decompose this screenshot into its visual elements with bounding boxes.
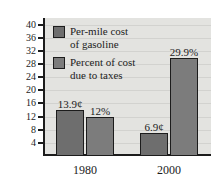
- y-axis: 481216202428323640: [0, 18, 45, 158]
- y-axis-tick-mark: [38, 63, 45, 65]
- y-axis-tick-label: 40: [26, 20, 38, 30]
- chart-legend: Per-mile cost of gasoline Percent of cos…: [53, 25, 165, 87]
- y-axis-tick-mark: [38, 50, 45, 52]
- y-axis-tick-mark: [38, 89, 45, 91]
- y-axis-tick-label: 8: [31, 125, 38, 135]
- y-axis-tick-mark: [38, 142, 45, 144]
- legend-label-series-b: Percent of cost due to taxes: [70, 56, 135, 82]
- bar: 13.9¢: [56, 110, 84, 156]
- legend-label-series-b-line2: due to taxes: [70, 69, 123, 81]
- legend-swatch-icon-series-b: [53, 57, 65, 69]
- bar: 12%: [86, 117, 114, 156]
- y-axis-tick-label: 20: [26, 85, 38, 95]
- y-axis-tick-label: 16: [26, 98, 38, 108]
- legend-item-per-mile-cost: Per-mile cost of gasoline: [53, 25, 165, 51]
- bar-chart: 481216202428323640 13.9¢12%6.9¢29.9% 198…: [0, 0, 223, 192]
- y-axis-tick-mark: [38, 24, 45, 26]
- legend-label-series-a-line2: of gasoline: [70, 38, 119, 50]
- legend-swatch-icon-series-a: [53, 26, 65, 38]
- y-axis-tick-label: 12: [26, 112, 38, 122]
- bar: 29.9%: [170, 58, 198, 156]
- y-axis-tick-label: 24: [26, 72, 38, 82]
- bar-value-label: 6.9¢: [144, 122, 163, 133]
- bar-value-label: 12%: [90, 106, 110, 117]
- legend-label-series-a-line1: Per-mile cost: [70, 25, 128, 37]
- legend-item-percent-of-cost: Percent of cost due to taxes: [53, 56, 165, 82]
- y-axis-tick-mark: [38, 129, 45, 131]
- y-axis-tick-mark: [38, 116, 45, 118]
- bar: 6.9¢: [140, 133, 168, 156]
- bar-value-label: 29.9%: [170, 47, 198, 58]
- y-axis-tick-label: 32: [26, 46, 38, 56]
- legend-label-series-b-line1: Percent of cost: [70, 56, 135, 68]
- y-axis-tick-mark: [38, 76, 45, 78]
- y-axis-tick-label: 4: [31, 138, 38, 148]
- x-axis-category-label: 2000: [157, 163, 181, 178]
- x-axis-category-label: 1980: [73, 163, 97, 178]
- bar-value-label: 13.9¢: [58, 99, 83, 110]
- legend-label-series-a: Per-mile cost of gasoline: [70, 25, 128, 51]
- y-axis-tick-label: 36: [26, 33, 38, 43]
- y-axis-tick-mark: [38, 102, 45, 104]
- y-axis-tick-label: 28: [26, 59, 38, 69]
- y-axis-tick-mark: [38, 37, 45, 39]
